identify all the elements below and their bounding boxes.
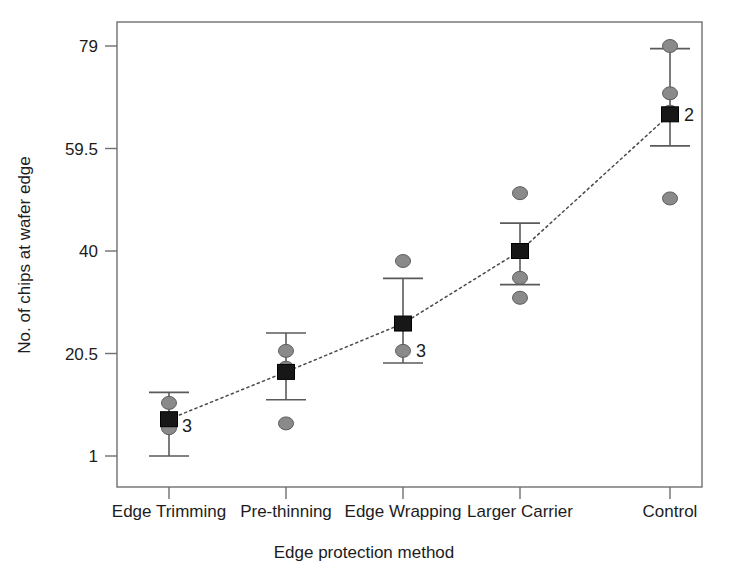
observation-point	[396, 254, 411, 267]
mean-marker	[662, 107, 679, 122]
y-tick-label-40: 40	[79, 242, 98, 261]
observation-point	[513, 271, 528, 284]
mean-marker	[161, 412, 178, 427]
x-tick-label-edge-wrapping: Edge Wrapping	[345, 502, 462, 521]
mean-marker	[395, 316, 412, 331]
y-tick-label-1: 1	[89, 447, 98, 466]
point-count-label-edge-wrapping: 3	[416, 341, 426, 361]
observation-point	[663, 40, 678, 53]
y-tick-label-79: 79	[79, 37, 98, 56]
observation-point	[162, 396, 177, 409]
observation-point	[663, 192, 678, 205]
y-tick-label-59-5: 59.5	[65, 140, 98, 159]
y-tick-label-20-5: 20.5	[65, 345, 98, 364]
x-tick-label-control: Control	[643, 502, 698, 521]
point-count-label-edge-trimming: 3	[182, 416, 192, 436]
y-axis-title: No. of chips at wafer edge	[15, 156, 34, 354]
x-tick-label-pre-thinning: Pre-thinning	[240, 502, 332, 521]
x-tick-label-edge-trimming: Edge Trimming	[112, 502, 226, 521]
x-axis-title: Edge protection method	[274, 543, 455, 562]
mean-marker	[512, 244, 529, 259]
plot-background	[0, 0, 729, 587]
observation-point	[513, 187, 528, 200]
interval-plot-svg: 79 59.5 40 20.5 1 Edge Trimming Pre-thin…	[0, 0, 729, 587]
observation-point	[396, 344, 411, 357]
point-count-label-control: 2	[684, 105, 694, 125]
chart-figure: 79 59.5 40 20.5 1 Edge Trimming Pre-thin…	[0, 0, 729, 587]
observation-point	[279, 344, 294, 357]
observation-point	[513, 291, 528, 304]
observation-point	[663, 87, 678, 100]
observation-point	[279, 417, 294, 430]
mean-marker	[278, 364, 295, 379]
x-tick-label-larger-carrier: Larger Carrier	[467, 502, 573, 521]
